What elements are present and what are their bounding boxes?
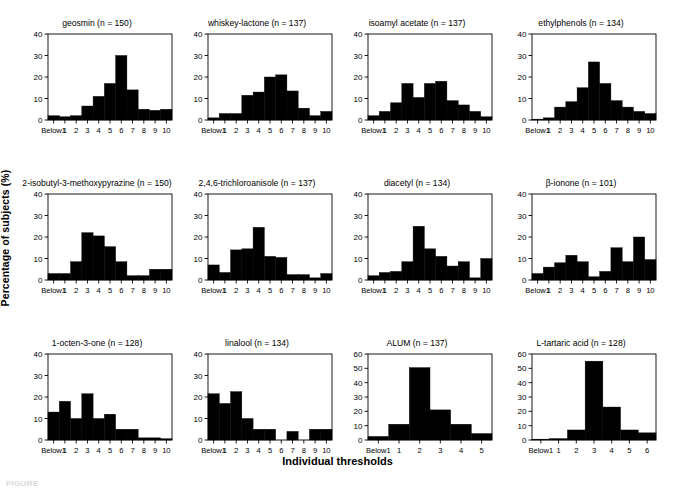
y-tick-label: 40 — [354, 379, 363, 388]
x-tick-label: 10 — [646, 286, 654, 295]
bar — [208, 118, 219, 120]
y-tick-label: 0 — [38, 116, 43, 125]
bar — [149, 110, 160, 120]
bar — [59, 401, 70, 440]
x-tick-label: 4 — [417, 126, 421, 135]
x-tick-label: 7 — [450, 126, 454, 135]
x-tick-label: 8 — [142, 446, 146, 455]
y-tick-label: 30 — [34, 372, 43, 381]
bar — [149, 438, 160, 440]
bar — [550, 439, 568, 440]
x-tick-label: 3 — [569, 126, 573, 135]
bar — [82, 106, 93, 120]
panel-title-2-isobutyl-3-methoxypyrazine: 2-isobutyl-3-methoxypyrazine (n = 150) — [16, 178, 178, 188]
bar — [242, 95, 253, 120]
y-tick-label: 40 — [34, 30, 43, 39]
x-tick-label: 2 — [234, 286, 238, 295]
x-tick-label: 3 — [569, 286, 573, 295]
bar — [253, 227, 264, 280]
y-tick-label: 10 — [34, 415, 43, 424]
y-tick-label: 40 — [34, 350, 43, 359]
bar — [413, 97, 424, 120]
bar — [287, 91, 298, 120]
x-tick-label: 7 — [130, 446, 134, 455]
bar — [93, 96, 104, 120]
y-tick-label: 30 — [194, 212, 203, 221]
bar — [481, 259, 492, 281]
x-tick-label: 8 — [626, 126, 630, 135]
x-tick-label: 5 — [268, 446, 272, 455]
bar — [621, 430, 639, 440]
bar — [458, 262, 469, 280]
y-tick-label: 40 — [194, 30, 203, 39]
x-tick-label: 4 — [581, 286, 585, 295]
x-tick-label: 5 — [592, 126, 596, 135]
x-tick-label: 4 — [257, 446, 261, 455]
bar — [253, 92, 264, 120]
y-tick-label: 10 — [194, 255, 203, 264]
x-tick-label: 4 — [417, 286, 421, 295]
x-tick-label: 4 — [97, 286, 101, 295]
x-tick-label: 2 — [74, 446, 78, 455]
panel-title-linalool: linalool (n = 134) — [176, 338, 338, 348]
bar — [264, 77, 275, 120]
x-tick-label: 6 — [119, 446, 123, 455]
bar — [451, 424, 472, 440]
bar — [430, 410, 451, 440]
y-tick-label: 0 — [198, 276, 203, 285]
y-tick-label: 0 — [198, 436, 203, 445]
bar — [532, 274, 543, 280]
y-tick-label: 10 — [354, 95, 363, 104]
x-tick-label: 4 — [97, 446, 101, 455]
x-tick-label: 7 — [290, 286, 294, 295]
bar — [298, 275, 309, 280]
panel-isoamyl-acetate: isoamyl acetate (n = 137)010203040Below1… — [336, 18, 498, 150]
x-tick-label: 3 — [245, 446, 249, 455]
chart-1-octen-3-one: 010203040Below112345678910 — [16, 338, 178, 470]
y-tick-label: 10 — [354, 255, 363, 264]
bar — [48, 116, 59, 120]
bar — [633, 237, 644, 280]
bar — [577, 262, 588, 280]
x-tick-label: Below1 — [366, 446, 391, 455]
y-tick-label: 30 — [518, 212, 527, 221]
x-tick-label: 10 — [482, 126, 490, 135]
bar — [379, 111, 390, 120]
bar — [603, 407, 621, 440]
x-tick-label: 8 — [142, 126, 146, 135]
panel-ethylphenols: ethylphenols (n = 134)010203040Below1123… — [500, 18, 662, 150]
bar — [116, 429, 127, 440]
bar — [276, 75, 287, 120]
x-tick-label: 10 — [322, 286, 330, 295]
y-tick-label: 20 — [518, 407, 527, 416]
bar — [543, 118, 554, 120]
bar — [555, 263, 566, 280]
x-tick-label: 5 — [268, 286, 272, 295]
bar — [391, 271, 402, 280]
bar — [59, 117, 70, 120]
x-tick-label: 10 — [322, 446, 330, 455]
bar — [413, 226, 424, 280]
y-tick-label: 0 — [358, 436, 363, 445]
y-tick-label: 20 — [34, 393, 43, 402]
bar — [219, 272, 230, 280]
bar — [93, 419, 104, 441]
y-tick-label: 30 — [194, 52, 203, 61]
panel-alum: ALUM (n = 137)0102030405060Below112345 — [336, 338, 498, 470]
x-tick-label: 4 — [257, 286, 261, 295]
x-tick-label: 3 — [592, 446, 596, 455]
x-tick-label: 7 — [450, 286, 454, 295]
bar — [161, 439, 172, 440]
bar — [127, 429, 138, 440]
panel-title-2-4-6-trichloroanisole: 2,4,6-trichloroanisole (n = 137) — [176, 178, 338, 188]
chart-linalool: 010203040Below112345678910 — [176, 338, 338, 470]
x-tick-label: 2 — [234, 126, 238, 135]
panel-beta-ionone: β-ionone (n = 101)010203040Below11234567… — [500, 178, 662, 310]
figure-caption-fragment: FIGURE — [6, 479, 39, 488]
bar — [402, 83, 413, 120]
y-tick-label: 10 — [34, 255, 43, 264]
bar — [104, 247, 115, 280]
bar — [633, 111, 644, 120]
bar — [645, 260, 656, 280]
bar — [600, 83, 611, 120]
